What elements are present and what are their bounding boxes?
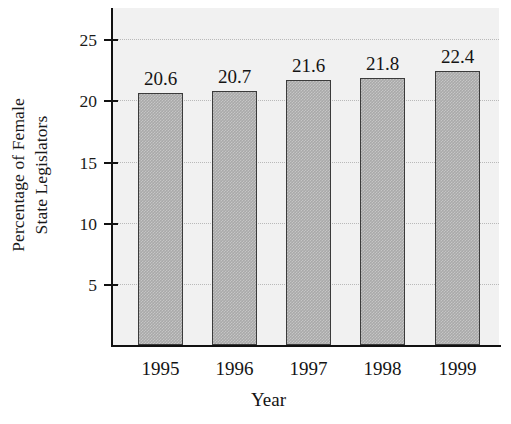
bar-chart: Percentage of Female State Legislators 2…: [0, 0, 511, 424]
bar-1996: [212, 91, 257, 345]
y-tick-label-25: 25: [57, 30, 97, 50]
y-tick-label-15: 15: [57, 153, 97, 173]
bar-1999: [435, 71, 480, 345]
y-tick-5: 5: [104, 284, 118, 286]
y-tick-25: 25: [104, 39, 118, 41]
x-tick-label-1995: 1995: [124, 357, 197, 380]
x-tick-label-1999: 1999: [421, 357, 494, 380]
y-axis-title-line-1: Percentage of Female: [7, 98, 30, 252]
x-tick-label-1996: 1996: [198, 357, 271, 380]
y-axis-line: [111, 8, 113, 347]
bar-1995: [138, 93, 183, 345]
bar-1998: [360, 78, 405, 345]
x-axis-title-text: Year: [251, 389, 286, 410]
x-tick-label-1997: 1997: [272, 357, 345, 380]
y-tick-label-20: 20: [57, 91, 97, 111]
x-axis-line: [111, 345, 501, 347]
y-axis-title: Percentage of Female State Legislators: [2, 0, 58, 350]
x-axis-title: Year: [0, 388, 511, 411]
y-tick-10: 10: [104, 223, 118, 225]
y-tick-15: 15: [104, 162, 118, 164]
y-tick-label-10: 10: [57, 214, 97, 234]
bar-value-1996: 20.7: [200, 66, 269, 88]
y-tick-label-5: 5: [57, 275, 97, 295]
bar-value-1999: 22.4: [423, 46, 492, 68]
x-tick-label-1998: 1998: [346, 357, 419, 380]
y-axis-title-line-2: State Legislators: [30, 98, 53, 252]
bar-value-1997: 21.6: [274, 55, 343, 77]
bar-value-1998: 21.8: [348, 53, 417, 75]
gridline-25: [113, 39, 499, 40]
bar-value-1995: 20.6: [126, 68, 195, 90]
y-tick-20: 20: [104, 100, 118, 102]
bar-1997: [286, 80, 331, 345]
